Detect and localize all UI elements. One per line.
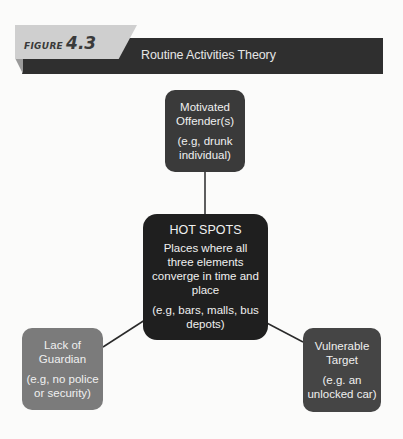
hotspots-desc-3: converge in time and [152,269,259,283]
hotspots-example-1: (e.g, bars, malls, bus [152,303,259,317]
figure-label: FIGURE4.3 [24,33,96,53]
offender-example-1: (e.g, drunk [178,134,233,148]
hotspots-example-2: depots) [186,317,224,331]
node-hot-spots: HOT SPOTS Places where all three element… [143,214,268,340]
guardian-example-2: or security) [34,386,91,400]
offender-title-1: Motivated [180,100,230,114]
figure-title: Routine Activities Theory [141,48,276,62]
target-to-hotspots-line [263,321,303,342]
hotspots-title: HOT SPOTS [169,223,241,237]
offender-title-2: Offender(s) [176,114,234,128]
target-example-2: unlocked car) [307,387,376,401]
guardian-to-hotspots-line [103,318,148,347]
guardian-title-1: Lack of [44,338,81,352]
target-title-2: Target [326,353,358,367]
figure-word: FIGURE [24,41,63,51]
hotspots-desc-2: three elements [167,255,243,269]
guardian-title-2: Guardian [39,352,86,366]
target-example-1: (e.g. an [323,373,362,387]
node-lack-of-guardian: Lack of Guardian (e.g, no police or secu… [22,328,103,410]
target-title-1: Vulnerable [315,339,370,353]
hotspots-desc-4: place [192,283,220,297]
node-motivated-offender: Motivated Offender(s) (e.g, drunk indivi… [165,90,245,172]
guardian-example-1: (e.g, no police [26,372,98,386]
node-vulnerable-target: Vulnerable Target (e.g. an unlocked car) [303,328,381,412]
figure-number: 4.3 [66,33,96,53]
offender-example-2: individual) [179,148,231,162]
hotspots-desc-1: Places where all [164,241,248,255]
